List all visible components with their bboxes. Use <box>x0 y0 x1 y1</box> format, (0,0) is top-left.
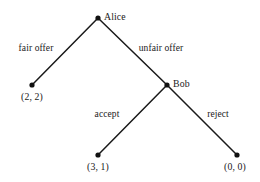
edge-label-reject: reject <box>207 110 229 120</box>
edge-label-fair-offer: fair offer <box>19 44 54 54</box>
payoff-label-accept: (3, 1) <box>87 162 109 172</box>
node-payoff-accept <box>95 152 100 157</box>
payoff-label-fair: (2, 2) <box>21 92 43 102</box>
edge-label-accept: accept <box>95 110 120 120</box>
edge-reject <box>167 85 237 155</box>
payoff-label-reject: (0, 0) <box>224 162 246 172</box>
game-tree-diagram: Alice Bob (2, 2) (3, 1) (0, 0) fair offe… <box>0 0 260 182</box>
edge-label-unfair-offer: unfair offer <box>139 44 184 54</box>
node-label-bob: Bob <box>173 79 190 89</box>
node-payoff-fair <box>29 82 34 87</box>
node-bob <box>164 82 169 87</box>
node-label-alice: Alice <box>104 12 126 22</box>
node-payoff-reject <box>234 152 239 157</box>
edge-accept <box>98 85 167 155</box>
node-alice <box>95 15 100 20</box>
